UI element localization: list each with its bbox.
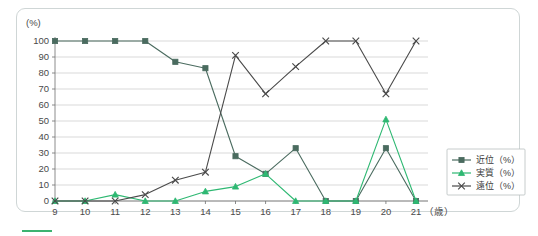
x-tick-label: 16 [260,206,271,217]
data-point-marker [383,91,390,98]
data-point-marker [112,191,118,197]
data-point-marker [203,66,208,71]
data-point-marker [262,91,269,98]
x-tick-label: 21 [411,206,422,217]
x-tick-label: 18 [320,206,331,217]
y-axis-unit-label: (%) [26,17,41,28]
y-tick-label: 20 [38,163,49,174]
data-point-marker [82,38,87,43]
x-tick-label: 19 [351,206,362,217]
series-triangle [52,116,419,203]
y-tick-label: 30 [38,147,49,158]
x-tick-label: 15 [230,206,241,217]
data-point-marker [172,177,179,184]
legend-item-label: 近位（%） [476,154,520,165]
data-point-marker [202,169,209,176]
x-tick-label: 9 [52,206,57,217]
x-tick-label: 11 [110,206,120,217]
x-axis-unit-label: （歳） [424,206,454,217]
x-tick-label: 20 [381,206,392,217]
data-point-marker [232,52,239,59]
x-tick-label: 13 [170,206,181,217]
y-tick-label: 50 [38,115,49,126]
data-point-marker [113,38,118,43]
x-tick-label: 14 [200,206,211,217]
data-point-marker [143,38,148,43]
y-tick-label: 90 [38,51,49,62]
footer-accent-rule [22,230,52,232]
line-chart: 0102030405060708090100 91011121314151617… [0,0,538,236]
data-point-marker [292,63,299,70]
y-tick-label: 10 [38,179,49,190]
data-point-marker [52,38,57,43]
x-axis-tick-labels: 9101112131415161718192021 [52,201,421,217]
data-point-marker [383,146,388,151]
axes [55,37,428,201]
chart-legend: 近位（%）実質（%）遠位（%） [447,149,525,195]
data-point-marker [173,59,178,64]
gridlines [55,41,428,201]
y-tick-label: 70 [38,83,49,94]
data-point-marker [233,154,238,159]
legend-item-label: 実質（%） [476,167,520,178]
data-point-marker [293,146,298,151]
y-tick-label: 80 [38,67,49,78]
legend-marker-square-icon [459,157,464,162]
y-axis-tick-labels: 0102030405060708090100 [33,35,55,206]
data-point-marker [383,116,389,122]
y-tick-label: 40 [38,131,49,142]
y-tick-label: 0 [44,195,49,206]
x-tick-label: 17 [290,206,301,217]
x-tick-label: 10 [80,206,91,217]
y-tick-label: 60 [38,99,49,110]
y-tick-label: 100 [33,35,49,46]
legend-item-label: 遠位（%） [476,180,520,191]
x-tick-label: 12 [140,206,151,217]
